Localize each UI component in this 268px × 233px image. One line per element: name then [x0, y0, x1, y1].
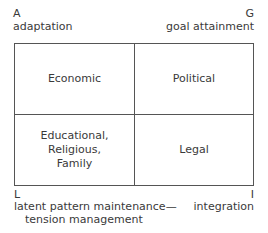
- corner-label-latent-pattern-line2: tension management: [25, 213, 143, 226]
- cell-political-label: Political: [173, 72, 215, 86]
- cell-economic-label: Economic: [48, 72, 101, 86]
- cell-political: Political: [135, 44, 253, 114]
- corner-letter-g: G: [245, 7, 254, 20]
- cell-legal-label: Legal: [179, 143, 208, 157]
- quadrant-box: Economic Political Educational, Religiou…: [14, 43, 254, 186]
- cell-educational-religious-family: Educational, Religious, Family: [15, 115, 134, 185]
- cell-line: Family: [57, 157, 92, 171]
- corner-label-goal-attainment: goal attainment: [166, 20, 254, 33]
- corner-letter-a: A: [13, 7, 21, 20]
- corner-label-adaptation: adaptation: [13, 20, 73, 33]
- corner-label-latent-pattern-line1: latent pattern maintenance—: [14, 200, 177, 213]
- cell-line: Educational,: [40, 129, 108, 143]
- cell-line: Religious,: [48, 143, 101, 157]
- cell-legal: Legal: [135, 115, 253, 185]
- corner-label-integration: integration: [194, 200, 254, 213]
- cell-economic: Economic: [15, 44, 134, 114]
